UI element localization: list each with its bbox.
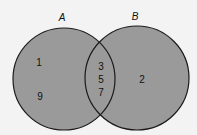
element-intersection-3: 7 [98, 87, 104, 98]
set-a-label: A [58, 12, 66, 23]
element-a-only-2: 9 [37, 91, 43, 102]
set-b-label: B [132, 11, 139, 22]
venn-diagram: A B 1 9 3 5 7 2 [0, 0, 197, 135]
element-intersection-1: 3 [98, 61, 104, 72]
element-intersection-2: 5 [98, 74, 104, 85]
element-a-only-1: 1 [36, 57, 42, 68]
element-b-only-1: 2 [139, 74, 145, 85]
